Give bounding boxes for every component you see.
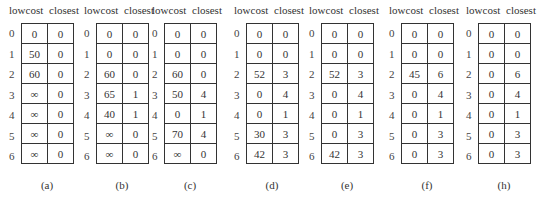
row-index: 3 (234, 89, 244, 101)
closest-cell: 0 (273, 44, 299, 64)
closest-cell: 0 (123, 124, 149, 144)
state-panel-d: lowcostclosest012345600005230401303423(d… (234, 0, 310, 205)
row-index: 4 (84, 109, 94, 121)
table-row: 01 (322, 104, 374, 124)
row-index: 6 (9, 150, 19, 162)
table-row: 704 (165, 124, 217, 144)
panel-caption: (f) (401, 179, 453, 191)
table-row: 01 (479, 104, 531, 124)
lowcost-cell: ∞ (22, 104, 48, 124)
table-row: 456 (402, 64, 454, 84)
row-index: 5 (309, 130, 319, 142)
closest-cell: 0 (505, 44, 531, 64)
table-row: ∞0 (97, 144, 149, 164)
row-index: 0 (9, 27, 19, 39)
closest-cell: 0 (48, 124, 74, 144)
closest-cell: 3 (428, 124, 454, 144)
closest-cell: 0 (273, 24, 299, 44)
closest-header: closest (349, 4, 379, 16)
lowcost-cell: 42 (322, 144, 348, 164)
closest-cell: 0 (48, 64, 74, 84)
lowcost-cell: 60 (22, 64, 48, 84)
table-row: 03 (402, 124, 454, 144)
table-row: 04 (402, 84, 454, 104)
lowcost-header: lowcost (84, 4, 118, 16)
table-row: ∞0 (22, 104, 74, 124)
row-index: 0 (234, 27, 244, 39)
lowcost-cell: 0 (247, 44, 273, 64)
lowcost-cell: 0 (402, 104, 428, 124)
closest-cell: 0 (123, 44, 149, 64)
lowcost-cell: 50 (22, 44, 48, 64)
closest-cell: 0 (48, 144, 74, 164)
closest-cell: 0 (348, 24, 374, 44)
row-index: 3 (152, 89, 162, 101)
table-row: 01 (165, 104, 217, 124)
array-table: 00000604010303 (478, 23, 531, 164)
lowcost-cell: 52 (247, 64, 273, 84)
row-index: 5 (466, 130, 476, 142)
lowcost-cell: 0 (322, 104, 348, 124)
lowcost-cell: 42 (247, 144, 273, 164)
closest-cell: 3 (428, 144, 454, 164)
closest-cell: 0 (48, 84, 74, 104)
row-index: 2 (389, 68, 399, 80)
row-index: 2 (9, 68, 19, 80)
table-row: 03 (479, 124, 531, 144)
row-index: 1 (389, 48, 399, 60)
closest-cell: 4 (348, 84, 374, 104)
closest-cell: 4 (191, 84, 217, 104)
lowcost-cell: 0 (247, 84, 273, 104)
closest-cell: 0 (428, 24, 454, 44)
closest-cell: 0 (428, 44, 454, 64)
lowcost-cell: 0 (165, 44, 191, 64)
lowcost-cell: 60 (97, 64, 123, 84)
table-row: 00 (247, 44, 299, 64)
lowcost-cell: 0 (479, 104, 505, 124)
lowcost-cell: 0 (479, 44, 505, 64)
row-index: 0 (309, 27, 319, 39)
closest-header: closest (274, 4, 304, 16)
closest-cell: 6 (505, 64, 531, 84)
closest-cell: 3 (348, 64, 374, 84)
lowcost-cell: 65 (97, 84, 123, 104)
table-row: 523 (247, 64, 299, 84)
lowcost-cell: 0 (402, 24, 428, 44)
closest-cell: 1 (123, 104, 149, 124)
lowcost-cell: 0 (322, 44, 348, 64)
row-index: 6 (466, 150, 476, 162)
state-panel-e: lowcostclosest01234560000523040103423(e) (309, 0, 385, 205)
row-index: 2 (84, 68, 94, 80)
lowcost-header: lowcost (152, 4, 186, 16)
row-index: 2 (234, 68, 244, 80)
row-index: 3 (84, 89, 94, 101)
lowcost-cell: 0 (247, 24, 273, 44)
closest-cell: 4 (428, 84, 454, 104)
lowcost-cell: 0 (402, 44, 428, 64)
closest-cell: 1 (123, 84, 149, 104)
row-index: 1 (466, 48, 476, 60)
state-panel-b: lowcostclosest01234560000600651401∞0∞0(b… (84, 0, 160, 205)
table-row: 04 (247, 84, 299, 104)
table-row: 00 (402, 24, 454, 44)
table-row: 423 (322, 144, 374, 164)
row-index: 6 (234, 150, 244, 162)
lowcost-cell: 45 (402, 64, 428, 84)
table-row: 600 (165, 64, 217, 84)
closest-cell: 0 (123, 24, 149, 44)
panel-caption: (b) (96, 179, 148, 191)
lowcost-cell: 30 (247, 124, 273, 144)
lowcost-cell: 0 (402, 144, 428, 164)
closest-cell: 4 (273, 84, 299, 104)
table-row: 00 (479, 24, 531, 44)
row-index: 4 (152, 109, 162, 121)
row-index: 5 (84, 130, 94, 142)
closest-cell: 1 (348, 104, 374, 124)
closest-cell: 0 (123, 64, 149, 84)
table-row: 03 (402, 144, 454, 164)
array-table: 00005230401303423 (246, 23, 299, 164)
table-row: 651 (97, 84, 149, 104)
table-row: 00 (165, 24, 217, 44)
panel-caption: (e) (321, 179, 373, 191)
row-index: 2 (466, 68, 476, 80)
